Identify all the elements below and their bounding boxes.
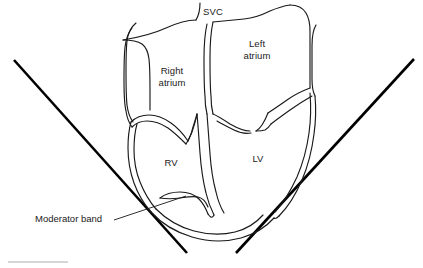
- interventricular-septum-left-path: [207, 114, 224, 213]
- interatrial-septum-left-path: [204, 24, 207, 114]
- heart-four-chamber-figure: SVC Right atrium Left atrium RV LV Moder…: [0, 0, 423, 268]
- heart-diagram-svg: [0, 0, 423, 268]
- moderator-band-upper-path: [160, 192, 208, 214]
- label-right-atrium: Right atrium: [143, 65, 201, 88]
- label-moderator-band: Moderator band: [35, 213, 102, 225]
- mitral-anterior-leaflet-path: [256, 113, 268, 131]
- left-atrium-free-wall-outer-path: [290, 5, 310, 88]
- interatrial-septum-right-path: [210, 22, 213, 114]
- right-atrium-floor-path: [132, 121, 186, 144]
- left-ventricle-lateral-wall-inner-path: [275, 93, 311, 212]
- tricuspid-septal-leaflet-inner-path: [188, 114, 197, 141]
- moderator-band-insertion-path: [208, 214, 214, 217]
- label-left-ventricle: LV: [239, 153, 277, 165]
- label-svc: SVC: [196, 6, 230, 18]
- left-atrium-floor-inner-path: [271, 96, 312, 124]
- svc-junction-path: [123, 20, 196, 40]
- left-atrium-free-wall-inner-path: [312, 25, 316, 96]
- left-ventricle-apex-join-path: [274, 216, 279, 218]
- label-left-atrium: Left atrium: [228, 38, 286, 61]
- cardiac-apex-inner-path: [156, 209, 263, 234]
- mitral-posterior-leaflet-inner-path: [217, 121, 251, 133]
- moderator-band-leader-line: [114, 196, 186, 220]
- label-right-ventricle: RV: [152, 157, 190, 169]
